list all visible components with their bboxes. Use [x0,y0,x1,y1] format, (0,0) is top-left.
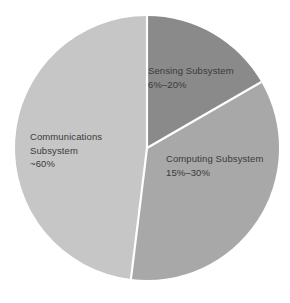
pie-label-communications-value: ~60% [30,157,102,171]
pie-label-sensing-name: Sensing Subsystem [148,64,234,78]
pie-label-computing-value: 15%–30% [166,166,263,180]
pie-label-communications-name-line1: Communications [30,130,102,144]
pie-chart: Sensing Subsystem 6%–20% Computing Subsy… [0,0,290,303]
pie-label-communications-name-line2: Subsystem [30,144,102,158]
pie-label-communications-subsystem: Communications Subsystem ~60% [30,130,102,171]
pie-label-computing-subsystem: Computing Subsystem 15%–30% [166,152,263,179]
pie-label-sensing-value: 6%–20% [148,78,234,92]
pie-label-sensing-subsystem: Sensing Subsystem 6%–20% [148,64,234,91]
pie-label-computing-name: Computing Subsystem [166,152,263,166]
